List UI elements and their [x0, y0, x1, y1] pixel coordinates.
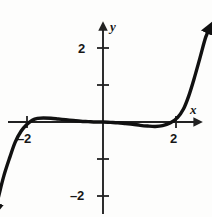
y-axis-tick-label-2: 2	[78, 41, 85, 56]
x-axis-tick-label-2: 2	[170, 131, 177, 146]
coordinate-plot	[0, 0, 212, 217]
x-axis-tick-label-neg2: –2	[17, 131, 31, 146]
graph-figure: 2 –2 –2 2 y x	[0, 0, 212, 217]
y-axis-tick-label-neg2: –2	[70, 188, 84, 203]
polynomial-curve	[0, 26, 211, 212]
x-axis-label: x	[190, 102, 197, 118]
y-axis-label: y	[110, 19, 116, 35]
